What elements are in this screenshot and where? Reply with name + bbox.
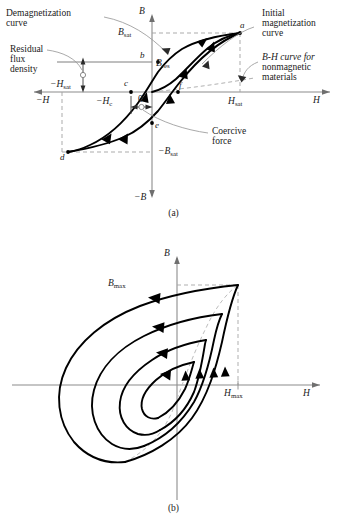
annotation-coercive-line-2: force	[212, 136, 246, 146]
annotation-nonmagnetic-line-1: B-H curve for	[262, 52, 315, 62]
leader-arrow-nonmagnetic	[238, 75, 247, 82]
annotation-initial-line-1: Initial	[262, 8, 316, 18]
panel-a-axes	[34, 14, 330, 198]
annotation-initial-magnetization-curve: Initial magnetization curve	[262, 8, 316, 38]
annotation-coercive-line-1: Coercive	[212, 126, 246, 136]
tick-label-h-sat-neg: −Hsat	[50, 79, 71, 90]
panel-b-axes	[12, 256, 320, 500]
arrow-asc-3	[207, 42, 216, 53]
tick-label-origin: 0	[138, 94, 143, 104]
point-marker-f	[176, 90, 180, 94]
panel-a-leader-arrowheads	[162, 48, 247, 83]
annotation-residual-line-1: Residual	[10, 44, 43, 54]
point-marker-d	[66, 150, 70, 154]
bres-callout-dot	[80, 72, 85, 77]
annotation-bh-curve-nonmagnetic: B-H curve for nonmagnetic materials	[262, 52, 315, 82]
b-axis-arrow-up	[149, 14, 155, 22]
annotation-coercive-force: Coercive force	[212, 126, 246, 146]
leader-residual-flux	[47, 50, 82, 70]
leader-demagnetization	[104, 17, 166, 52]
panel-a-b-axis-label: B	[139, 6, 145, 16]
point-label-e: e	[155, 120, 159, 130]
panel-b-b-axis-label: B	[164, 248, 170, 258]
bres-arrow-up	[81, 58, 86, 65]
annotation-nonmagnetic-line-2: nonmagnetic	[262, 62, 315, 72]
tick-label-h-sat: Hsat	[228, 96, 242, 107]
point-marker-c	[129, 90, 133, 94]
annotation-residual-line-3: density	[10, 64, 43, 74]
panel-a-h-axis-label: H	[313, 95, 320, 105]
panel-a-caption: (a)	[0, 208, 347, 218]
point-label-f: f	[179, 80, 182, 90]
panel-a-b-neg-axis-label: −B	[134, 192, 146, 202]
annotation-demagnetization-line-2: curve	[6, 18, 71, 28]
arrow-loop3-right	[209, 368, 218, 378]
loop-1-upper-branch	[142, 362, 194, 419]
point-label-c: c	[124, 78, 128, 88]
annotation-demagnetization-line-1: Demagnetization	[6, 8, 71, 18]
annotation-demagnetization-curve: Demagnetization curve	[6, 8, 71, 28]
panel-b-h-axis-label: H	[303, 388, 310, 398]
point-marker-e	[150, 121, 154, 125]
leader-arrow-demagnetization	[162, 48, 171, 55]
tick-label-b-sat: Bsat	[118, 27, 131, 38]
arrow-loop2-right	[195, 369, 204, 379]
panel-b-caption: (b)	[0, 503, 347, 513]
panel-a-h-neg-axis-label: −H	[36, 95, 49, 105]
point-label-b: b	[140, 50, 145, 60]
arrow-loop4-right	[221, 367, 230, 377]
b-axis-arrow-down	[149, 190, 155, 198]
tick-label-b-sat-neg: −Bsat	[158, 146, 178, 157]
tick-label-b-max: Bmax	[108, 278, 126, 289]
panel-b-h-axis-arrow	[312, 382, 320, 388]
hysteresis-figure: Demagnetization curve Residual flux dens…	[0, 0, 347, 524]
annotation-initial-line-2: magnetization	[262, 18, 316, 28]
point-label-a: a	[240, 20, 245, 30]
tick-label-h-c-neg: −Hc	[96, 96, 112, 107]
tick-label-h-max: Hmax	[224, 388, 243, 399]
residual-flux-measure	[57, 58, 152, 93]
annotation-residual-flux-density: Residual flux density	[10, 44, 43, 74]
arrow-loop1-right	[181, 371, 190, 381]
annotation-nonmagnetic-line-3: materials	[262, 72, 315, 82]
arrow-initial-curve	[179, 69, 188, 80]
point-label-d: d	[60, 152, 65, 162]
panel-b-graphic	[0, 244, 347, 506]
arrow-desc-1	[197, 38, 208, 48]
arrow-asc-1	[118, 134, 128, 145]
leader-arrow-initial	[202, 61, 210, 70]
h-axis-arrow-left	[34, 89, 42, 95]
tick-label-b-res: Bres	[156, 58, 170, 69]
annotation-initial-line-3: curve	[262, 28, 316, 38]
h-axis-arrow-right	[322, 89, 330, 95]
panel-b-upper-arrows	[148, 293, 171, 381]
panel-b-b-axis-arrow	[174, 256, 180, 264]
annotation-residual-line-2: flux	[10, 54, 43, 64]
hc-callout-dot	[139, 104, 144, 109]
